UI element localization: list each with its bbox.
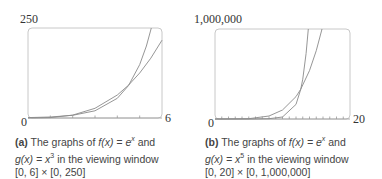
- x-max-label: 20: [353, 112, 365, 127]
- caption-b: (b) The graphs of f(x) = ex and g(x) = x…: [205, 132, 382, 179]
- panel-a: 250 0 6 (a) The graphs of f(x) = ex and …: [0, 0, 191, 179]
- curve-quintic: [215, 29, 322, 119]
- curve-exp: [28, 28, 151, 118]
- x-min-label: 0: [21, 115, 27, 130]
- x-min-label: 0: [208, 116, 214, 131]
- caption-a: (a) The graphs of f(x) = ex and g(x) = x…: [15, 132, 195, 179]
- chart-b-plot: [191, 0, 382, 130]
- chart-a-plot: [0, 0, 191, 130]
- curve-exp: [215, 29, 308, 119]
- curve-cubic: [28, 40, 162, 118]
- x-max-label: 6: [165, 111, 171, 126]
- panel-b: 1,000,000 0 20 (b) The graphs of f(x) = …: [191, 0, 382, 179]
